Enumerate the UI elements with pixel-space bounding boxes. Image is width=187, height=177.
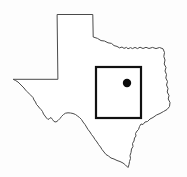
site-location-dot: [123, 79, 131, 87]
texas-map-svg: [0, 0, 187, 177]
map-figure: Texas state outline map Texas study-area…: [0, 0, 187, 177]
